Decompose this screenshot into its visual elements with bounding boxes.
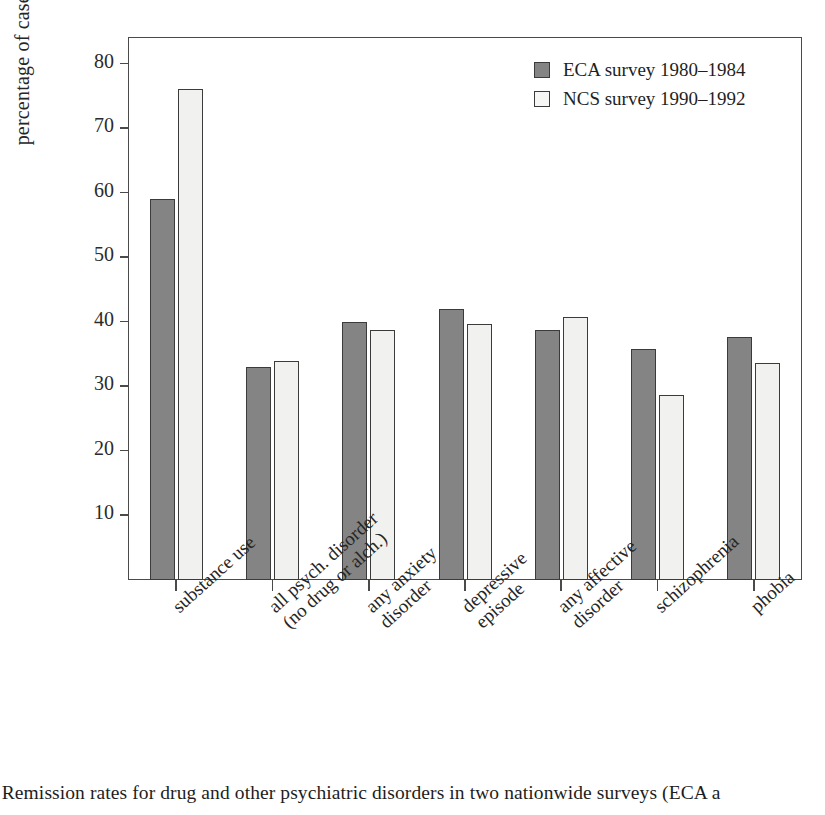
- y-tick-label: 50: [70, 243, 114, 266]
- x-tick-mark-6: [753, 580, 755, 591]
- figure-container: percentage of cases remitted 10203040506…: [0, 0, 825, 815]
- y-tick-mark: [120, 450, 129, 452]
- y-tick-label: 70: [70, 114, 114, 137]
- legend-swatch-ncs: [534, 91, 550, 107]
- x-tick-mark-5: [657, 580, 659, 591]
- bar-ncs-1: [274, 361, 299, 580]
- y-axis-title: percentage of cases remitted: [0, 0, 44, 194]
- legend-item-ncs: NCS survey 1990–1992: [534, 86, 784, 111]
- y-tick-label: 20: [70, 437, 114, 460]
- figure-caption: e Remission rates for drug and other psy…: [0, 782, 825, 804]
- bar-ncs-3: [467, 324, 492, 580]
- plot-frame: [128, 37, 802, 580]
- legend: ECA survey 1980–1984 NCS survey 1990–199…: [534, 57, 784, 115]
- bar-ncs-5: [659, 395, 684, 580]
- y-tick-label: 60: [70, 179, 114, 202]
- x-tick-mark-4: [560, 580, 562, 591]
- y-tick-mark: [120, 192, 129, 194]
- y-tick-mark: [120, 321, 129, 323]
- legend-item-eca: ECA survey 1980–1984: [534, 57, 784, 82]
- legend-label-eca: ECA survey 1980–1984: [563, 59, 746, 81]
- y-tick-label: 30: [70, 372, 114, 395]
- legend-label-ncs: NCS survey 1990–1992: [563, 88, 746, 110]
- y-tick-label: 10: [70, 501, 114, 524]
- bar-ncs-4: [563, 317, 588, 580]
- bar-eca-3: [439, 309, 464, 580]
- y-tick-mark: [120, 63, 129, 65]
- y-tick-mark: [120, 256, 129, 258]
- bar-ncs-0: [178, 89, 203, 580]
- y-tick-label: 40: [70, 308, 114, 331]
- x-tick-mark-0: [175, 580, 177, 591]
- bar-eca-0: [150, 199, 175, 580]
- x-tick-mark-3: [464, 580, 466, 591]
- bar-ncs-6: [755, 363, 780, 580]
- y-tick-label: 80: [70, 50, 114, 73]
- x-tick-mark-1: [272, 580, 274, 591]
- y-tick-mark: [120, 514, 129, 516]
- legend-swatch-eca: [534, 62, 550, 78]
- x-tick-mark-2: [368, 580, 370, 591]
- y-tick-mark: [120, 127, 129, 129]
- bar-eca-4: [535, 330, 560, 580]
- y-tick-mark: [120, 385, 129, 387]
